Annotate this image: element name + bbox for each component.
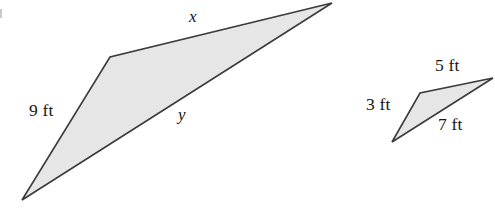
small-triangle-label-7ft: 7 ft [438,116,463,134]
large-triangle-shape [22,3,332,200]
triangles-diagram [0,0,495,213]
scan-artifact-mark [0,9,2,18]
figure-canvas: x y 9 ft 5 ft 3 ft 7 ft [0,0,495,213]
large-triangle-label-x: x [189,8,197,25]
small-triangle-label-5ft: 5 ft [435,57,460,75]
large-triangle-label-y: y [178,106,186,123]
small-triangle-label-3ft: 3 ft [366,96,391,114]
large-triangle-label-9ft: 9 ft [29,102,54,120]
